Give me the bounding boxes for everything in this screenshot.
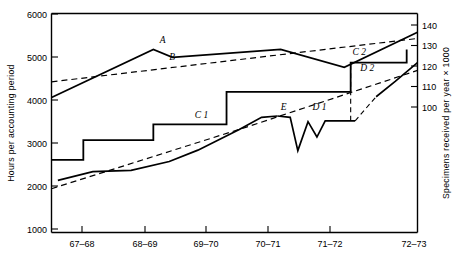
right-axis-title: Specimens received per year × 1000: [441, 47, 451, 199]
x-tick-label: 70–71: [255, 239, 280, 249]
series-label-a: A: [159, 35, 166, 45]
right-tick-label: 110: [422, 82, 436, 92]
left-tick-label: 3000: [27, 139, 47, 149]
x-tick-label: 69–70: [193, 239, 218, 249]
right-tick-label: 140: [422, 21, 437, 31]
x-axis-tick-labels: 67–68 68–69 69–70 70–71 71–72 72–73: [69, 239, 426, 249]
right-axis-tick-labels: 140 130 120 110 100: [422, 21, 437, 113]
series-line-d1: [277, 116, 355, 151]
left-tick-label: 2000: [27, 182, 47, 192]
series-label-c2: C 2: [353, 47, 367, 57]
left-tick-label: 4000: [27, 96, 47, 106]
left-axis-tick-labels: 6000 5000 4000 3000 2000 1000: [27, 10, 47, 235]
series-label-d1: D 1: [311, 102, 326, 112]
right-tick-label: 120: [422, 62, 437, 72]
series-label-d2: D 2: [359, 63, 374, 73]
right-tick-label: 130: [422, 41, 437, 51]
x-tick-label: 68–69: [132, 239, 157, 249]
x-tick-label: 72–73: [401, 239, 426, 249]
left-axis-ticks: [52, 14, 59, 229]
series-line-e: [58, 116, 278, 180]
left-tick-label: 5000: [27, 53, 47, 63]
chart-svg: 6000 5000 4000 3000 2000 1000 140 130 12…: [0, 0, 456, 271]
series-line-d2: [376, 63, 417, 97]
series-line-d-riser: [355, 97, 376, 121]
series-label-c1: C 1: [195, 110, 208, 120]
left-axis-title: Hours per accounting period: [6, 64, 16, 181]
left-tick-label: 1000: [27, 225, 47, 235]
x-tick-label: 67–68: [69, 239, 94, 249]
series-line-b: [52, 38, 418, 81]
right-tick-label: 100: [422, 103, 437, 113]
series-label-e: E: [280, 102, 287, 112]
x-axis-ticks: [82, 226, 330, 233]
left-tick-label: 6000: [27, 10, 47, 20]
series-label-b: B: [169, 52, 175, 62]
x-tick-label: 71–72: [317, 239, 342, 249]
chart-figure: 6000 5000 4000 3000 2000 1000 140 130 12…: [0, 0, 456, 271]
